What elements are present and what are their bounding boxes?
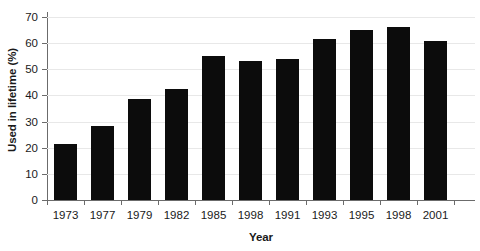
x-axis-tick (343, 200, 344, 205)
y-axis-tick-label: 20 (8, 142, 38, 154)
y-axis-tick-label-wrap: 70 (6, 11, 38, 23)
x-axis-tick-label: 1998 (380, 208, 417, 222)
bar (202, 56, 225, 200)
x-axis-tick (84, 200, 85, 205)
y-axis-tick-label-wrap: 20 (6, 142, 38, 154)
bar (387, 27, 410, 200)
x-axis-tick-label: 2001 (417, 208, 454, 222)
bar-slot (84, 17, 121, 200)
y-axis-tick-label: 40 (8, 89, 38, 101)
y-axis-tick-label-wrap: 30 (6, 116, 38, 128)
bars-layer (47, 17, 475, 200)
bar-slot (269, 17, 306, 200)
y-axis-tick-label-wrap: 50 (6, 63, 38, 75)
bar-slot (195, 17, 232, 200)
y-axis-tick-label-wrap: 0 (6, 194, 38, 206)
x-axis-baseline (47, 200, 475, 201)
bar (165, 89, 188, 200)
x-axis-tick-label: 1982 (158, 208, 195, 222)
y-axis-tick-label: 0 (8, 194, 38, 206)
bar (91, 126, 114, 201)
y-axis-tick-label: 70 (8, 11, 38, 23)
bar-chart: Used in lifetime (%) 010203040506070 197… (0, 0, 480, 251)
x-axis-tick (269, 200, 270, 205)
bar (424, 41, 447, 200)
x-axis-tick-label: 1993 (306, 208, 343, 222)
bar (54, 144, 77, 200)
x-axis-tick (47, 200, 48, 205)
bar-slot (232, 17, 269, 200)
y-axis-tick-label-wrap: 40 (6, 89, 38, 101)
bar-slot (121, 17, 158, 200)
bar-slot (306, 17, 343, 200)
x-axis-tick (380, 200, 381, 205)
x-axis-tick (454, 200, 455, 205)
bar-slot (417, 17, 454, 200)
y-axis-tick-label: 10 (8, 168, 38, 180)
bar-slot (47, 17, 84, 200)
bar (313, 39, 336, 200)
x-axis-tick-label: 1985 (195, 208, 232, 222)
bar-slot (380, 17, 417, 200)
x-axis-tick-label: 1998 (232, 208, 269, 222)
bar (128, 99, 151, 200)
y-axis-tick-label-wrap: 60 (6, 37, 38, 49)
x-axis-tick-label: 1979 (121, 208, 158, 222)
y-axis-tick-label-wrap: 10 (6, 168, 38, 180)
x-axis-tick (417, 200, 418, 205)
x-axis-tick (158, 200, 159, 205)
x-axis-tick-label: 1973 (47, 208, 84, 222)
x-axis-tick-label: 1977 (84, 208, 121, 222)
x-axis-tick-label: 1995 (343, 208, 380, 222)
x-axis-tick (121, 200, 122, 205)
x-axis-tick (232, 200, 233, 205)
y-axis-tick-label: 60 (8, 37, 38, 49)
x-axis-tick (306, 200, 307, 205)
bar-slot (343, 17, 380, 200)
y-axis-tick-label: 50 (8, 63, 38, 75)
x-axis-tick (195, 200, 196, 205)
bar (276, 59, 299, 200)
x-axis-title: Year (47, 231, 475, 243)
bar-slot (158, 17, 195, 200)
y-axis-tick-label: 30 (8, 116, 38, 128)
bar (239, 61, 262, 200)
bar (350, 30, 373, 200)
x-axis-tick-label: 1991 (269, 208, 306, 222)
